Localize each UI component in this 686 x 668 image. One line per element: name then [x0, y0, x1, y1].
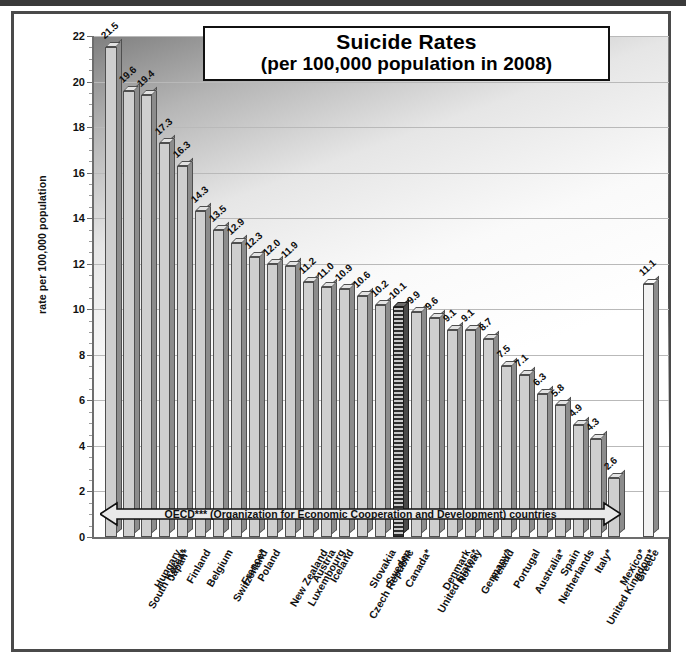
bar-face: [141, 95, 152, 537]
gridline: [92, 127, 669, 128]
gridline: [92, 82, 669, 83]
figure-frame: rate per 100,000 population 024681012141…: [11, 11, 671, 652]
bar-side: [350, 281, 355, 533]
bar-face: [159, 143, 170, 537]
bar-side: [440, 310, 445, 533]
y-axis-line: [92, 36, 94, 539]
bar: 12.0: [267, 264, 278, 537]
bar-side: [314, 274, 319, 533]
bar-face: [231, 243, 242, 537]
oecd-annotation-text: OECD*** (Organization for Economic Coope…: [100, 501, 621, 527]
bar-face: [285, 266, 296, 537]
bar-side: [224, 221, 229, 533]
bar-face: [321, 287, 332, 538]
x-axis-category-labels: South Korea*HungaryJapan*FinlandBelgiumS…: [92, 541, 669, 661]
bar: 16.3: [177, 166, 188, 537]
bar: 12.3: [249, 257, 260, 537]
y-tick-label: 18: [73, 121, 85, 133]
bar-side: [278, 256, 283, 533]
x-axis-line: [92, 537, 669, 539]
scan-edge-band: [0, 0, 686, 6]
bar-side: [260, 249, 265, 533]
bar-face: [249, 257, 260, 537]
bar-face: [643, 284, 654, 537]
bar-side: [422, 303, 427, 533]
y-tick-label: 16: [73, 167, 85, 179]
bar: 12.9: [231, 243, 242, 537]
bar: 21.5: [105, 47, 116, 537]
bar-face: [195, 211, 206, 537]
bar-side: [386, 297, 391, 533]
y-tick-label: 4: [79, 440, 85, 452]
bar: 17.3: [159, 143, 170, 537]
y-tick-label: 8: [79, 349, 85, 361]
y-tick-label: 20: [73, 76, 85, 88]
bar-face: [339, 289, 350, 537]
bar-side: [332, 278, 337, 533]
bar: 11.9: [285, 266, 296, 537]
bar-face: [123, 91, 134, 537]
plot-area: 0246810121416182022 21.519.619.417.316.3…: [92, 36, 669, 539]
bar-side: [242, 235, 247, 533]
chart-title-line-2: (per 100,000 population in 2008): [211, 54, 602, 75]
bar-side: [404, 299, 409, 533]
chart-title-line-1: Suicide Rates: [211, 31, 602, 54]
y-tick-label: 6: [79, 394, 85, 406]
bar-side: [152, 87, 157, 533]
y-tick-label: 2: [79, 485, 85, 497]
bar: 10.9: [339, 289, 350, 537]
bar-face: [105, 47, 116, 537]
bar: 19.4: [141, 95, 152, 537]
oecd-annotation-banner: OECD*** (Organization for Economic Coope…: [100, 501, 621, 527]
chart-title-box: Suicide Rates (per 100,000 population in…: [203, 26, 610, 81]
y-tick-label: 14: [73, 212, 85, 224]
bar-side: [188, 158, 193, 533]
bar-side: [117, 39, 122, 533]
bar: 13.5: [213, 230, 224, 537]
y-axis-label: rate per 100,000 population: [36, 175, 48, 314]
bar: 19.6: [123, 91, 134, 537]
bar-face: [267, 264, 278, 537]
bar-side: [206, 203, 211, 533]
bar: 11.2: [303, 282, 314, 537]
y-tick-label: 12: [73, 258, 85, 270]
bar-side: [368, 287, 373, 533]
bar-oecd-average: 11.1: [643, 284, 654, 537]
y-tick-label: 0: [79, 531, 85, 543]
bar-side: [654, 276, 659, 533]
bar-face: [177, 166, 188, 537]
bar: 14.3: [195, 211, 206, 537]
bar: 11.0: [321, 287, 332, 538]
bar-face: [303, 282, 314, 537]
chart-screenshot: rate per 100,000 population 024681012141…: [0, 0, 686, 668]
bar-side: [296, 258, 301, 533]
y-tick-label: 22: [73, 30, 85, 42]
bar-side: [170, 135, 175, 533]
y-tick-label: 10: [73, 303, 85, 315]
bar-face: [213, 230, 224, 537]
bar-side: [135, 82, 140, 533]
